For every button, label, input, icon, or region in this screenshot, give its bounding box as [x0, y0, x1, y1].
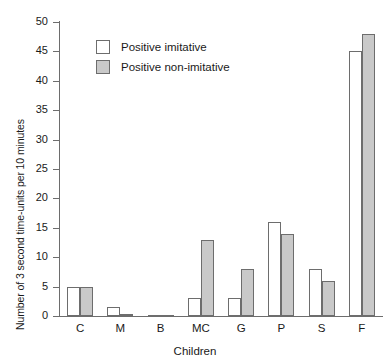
y-axis-tick-label: 50 — [20, 16, 48, 27]
y-axis-tick — [53, 22, 60, 23]
y-axis-tick — [53, 287, 60, 288]
bar-F-non-imitative — [362, 34, 375, 316]
y-axis-tick — [53, 81, 60, 82]
y-axis-tick-label: 35 — [20, 104, 48, 115]
bar-F-imitative — [349, 51, 362, 316]
bar-C-imitative — [67, 287, 80, 316]
y-axis-tick — [53, 257, 60, 258]
y-axis-tick-label: 10 — [20, 251, 48, 262]
y-axis-tick-label: 20 — [20, 192, 48, 203]
y-axis-tick — [53, 140, 60, 141]
legend-item-imitative: Positive imitative — [96, 38, 230, 55]
legend-item-non-imitative: Positive non-imitative — [96, 58, 230, 75]
y-axis-tick — [53, 228, 60, 229]
y-axis-tick-label: 15 — [20, 222, 48, 233]
y-axis-tick-label: 5 — [20, 281, 48, 292]
y-axis-tick — [53, 198, 60, 199]
x-axis-title: Children — [0, 345, 390, 357]
y-axis-tick-label: 0 — [20, 310, 48, 321]
bar-MC-imitative — [188, 298, 201, 316]
bar-P-non-imitative — [281, 234, 294, 316]
bar-P-imitative — [268, 222, 281, 316]
y-axis-tick-label: 45 — [20, 45, 48, 56]
x-axis-line — [59, 316, 383, 317]
bar-B-non-imitative — [161, 315, 174, 317]
y-axis-tick-label: 40 — [20, 75, 48, 86]
bar-M-non-imitative — [120, 314, 133, 316]
bar-MC-non-imitative — [201, 240, 214, 316]
y-axis-tick-label: 25 — [20, 163, 48, 174]
y-axis-tick — [53, 51, 60, 52]
legend: Positive imitative Positive non-imitativ… — [96, 38, 230, 78]
legend-label-non-imitative: Positive non-imitative — [121, 61, 230, 73]
legend-label-imitative: Positive imitative — [121, 41, 207, 53]
bar-chart: Number of 3 second time-units per 10 min… — [0, 0, 390, 364]
y-axis-tick-label: 30 — [20, 134, 48, 145]
bar-S-non-imitative — [322, 281, 335, 316]
legend-swatch-icon-imitative — [96, 40, 110, 54]
bar-C-non-imitative — [80, 287, 93, 316]
bar-B-imitative — [148, 315, 161, 317]
bar-M-imitative — [107, 307, 120, 316]
y-axis-tick — [53, 169, 60, 170]
x-axis-label-F: F — [337, 322, 387, 334]
y-axis-tick — [53, 110, 60, 111]
bar-G-imitative — [228, 298, 241, 316]
bar-G-non-imitative — [241, 269, 254, 316]
y-axis-tick — [53, 316, 60, 317]
legend-swatch-icon-non-imitative — [96, 60, 110, 74]
bar-S-imitative — [309, 269, 322, 316]
